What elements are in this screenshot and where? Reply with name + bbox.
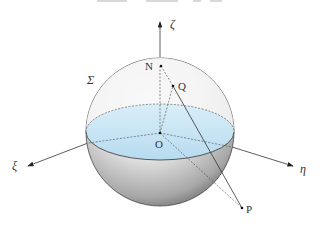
point-O	[159, 132, 162, 135]
O-label: O	[155, 139, 163, 150]
eta-label: η	[300, 163, 306, 175]
sphere-diagram	[0, 0, 322, 226]
point-N	[160, 65, 163, 68]
Q-label: Q	[178, 81, 186, 92]
point-Q	[172, 85, 175, 88]
eta-axis	[232, 147, 293, 166]
diagram-canvas: ζ ξ η Σ N Q O P	[0, 0, 322, 226]
zeta-label: ζ	[170, 18, 175, 30]
P-label: P	[246, 204, 252, 215]
xi-label: ξ	[12, 160, 17, 172]
N-label: N	[145, 61, 153, 72]
sphere-label: Σ	[87, 74, 94, 86]
point-P	[241, 207, 244, 210]
xi-axis	[28, 143, 88, 166]
